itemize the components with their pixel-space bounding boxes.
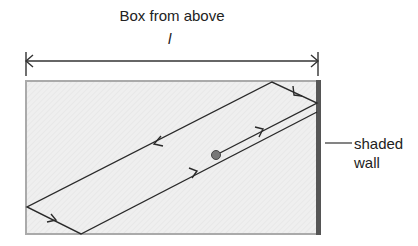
- ball: [212, 151, 221, 160]
- dimension-arrow: [26, 52, 318, 76]
- diagram-canvas: [0, 0, 418, 246]
- box: [26, 81, 317, 234]
